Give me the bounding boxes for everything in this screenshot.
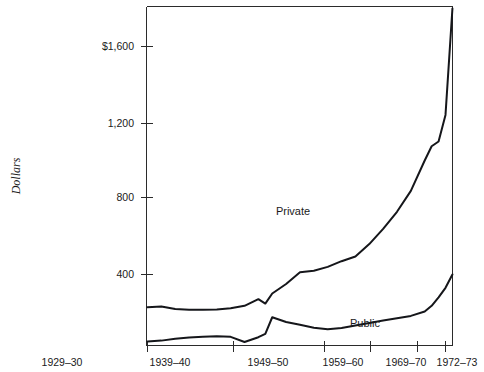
top-clip-mask [0, 0, 484, 6]
x-tick-label-1959: 1959–60 [323, 356, 364, 368]
private-series-label: Private [276, 205, 310, 217]
line-chart: $1,600 1,200 800 400 Dollars 1929–30 193… [0, 0, 484, 372]
series-line-public [148, 275, 453, 342]
chart-container: $1,600 1,200 800 400 Dollars 1929–30 193… [0, 0, 484, 372]
y-tick-label-400: 400 [116, 268, 134, 280]
series-group [148, 9, 453, 342]
y-tick-label-800: 800 [116, 191, 134, 203]
x-tick-label-1949: 1949–50 [248, 356, 289, 368]
x-tick-label-1972: 1972–73 [437, 356, 478, 368]
y-tick-label-1600: $1,600 [102, 40, 134, 52]
y-axis-title: Dollars [9, 157, 23, 195]
y-tick-label-1200: 1,200 [108, 117, 134, 129]
x-tick-label-1929: 1929–30 [42, 356, 83, 368]
x-tick-label-1939: 1939–40 [150, 356, 191, 368]
series-line-private [148, 9, 453, 310]
public-series-label: Public [350, 317, 380, 329]
x-tick-label-1969: 1969–70 [386, 356, 427, 368]
